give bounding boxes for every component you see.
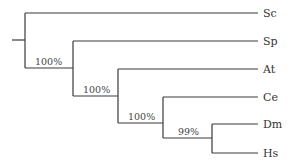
support-value-node-4: 100%: [128, 111, 155, 122]
taxon-label-at: At: [262, 63, 276, 76]
phylogenetic-tree: Sc Sp At Ce Dm Hs 100% 100% 100% 99%: [0, 0, 289, 166]
taxon-label-ce: Ce: [263, 91, 278, 104]
taxon-label-sp: Sp: [263, 35, 278, 48]
taxon-label-dm: Dm: [263, 118, 283, 131]
taxon-label-sc: Sc: [263, 7, 277, 20]
taxon-label-hs: Hs: [263, 147, 279, 160]
support-value-node-3: 100%: [83, 84, 110, 95]
support-value-node-2: 100%: [35, 56, 62, 67]
support-value-node-5: 99%: [178, 126, 199, 137]
